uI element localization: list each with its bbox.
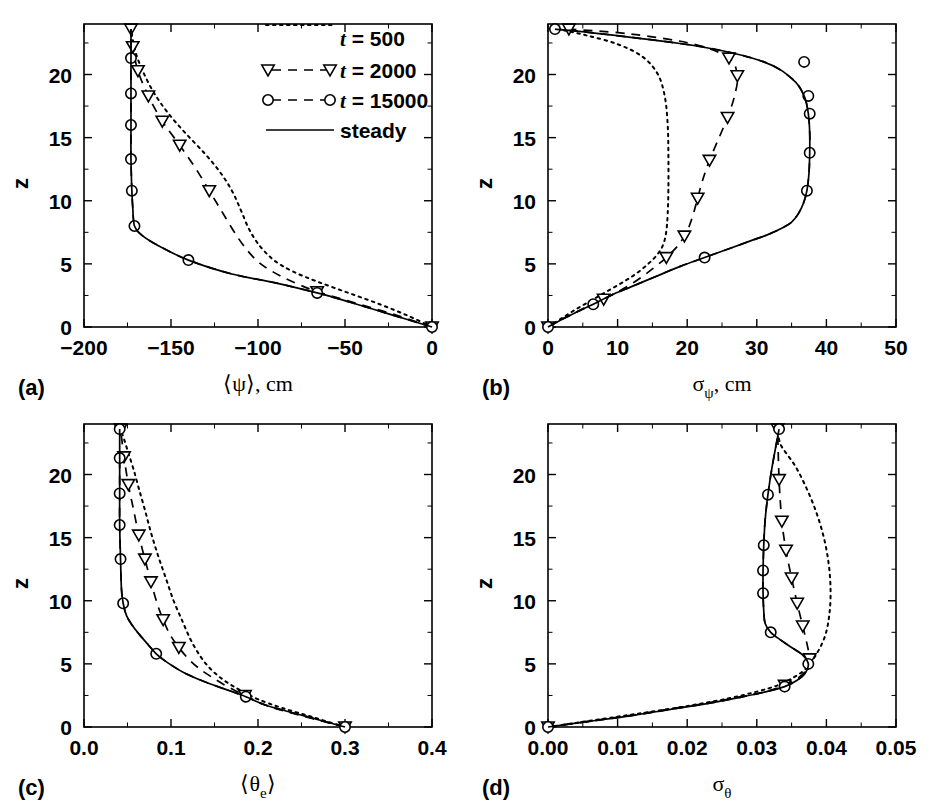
marker-triangle-down: [723, 53, 735, 64]
marker-triangle-down: [203, 186, 215, 197]
x-tick-label: −100: [234, 336, 281, 359]
y-axis-title: z: [8, 178, 33, 189]
panel-b: 0102030405005101520σψ, cmz(b): [472, 24, 908, 401]
x-tick-label: 30: [745, 336, 768, 359]
panel-d: 0.000.010.020.030.040.0505101520σθz(d): [472, 424, 917, 801]
marker-triangle-down: [791, 598, 803, 609]
marker-triangle-down: [691, 193, 703, 204]
y-tick-label: 5: [60, 253, 72, 276]
figure-container: −200−150−100−50005101520⟨ψ⟩, cmz(a)01020…: [0, 0, 934, 802]
x-tick-label: 0: [542, 336, 554, 359]
x-tick-label: 0.1: [156, 736, 186, 759]
panel-letter: (b): [482, 375, 510, 400]
legend: t = 500t = 2000t = 15000steady: [262, 25, 428, 142]
marker-triangle-down: [142, 91, 154, 102]
y-tick-label: 15: [513, 127, 537, 150]
x-tick-label: −50: [327, 336, 363, 359]
x-tick-label: 0.02: [667, 736, 708, 759]
y-axis-title: z: [8, 578, 33, 589]
y-axis-title: z: [472, 178, 497, 189]
marker-triangle-down: [122, 480, 134, 491]
x-tick-label: 10: [606, 336, 629, 359]
y-axis-title: z: [472, 578, 497, 589]
y-tick-label: 10: [513, 590, 536, 613]
y-tick-label: 15: [49, 127, 73, 150]
legend-label-2: t = 15000: [340, 89, 428, 113]
y-tick-label: 5: [60, 653, 72, 676]
marker-triangle-down: [721, 112, 733, 123]
series-line-2: [548, 29, 810, 327]
plot-frame: [548, 424, 896, 727]
y-tick-label: 20: [49, 464, 72, 487]
plot-frame: [548, 24, 896, 327]
y-tick-label: 20: [513, 464, 536, 487]
y-tick-label: 10: [513, 190, 536, 213]
multi-panel-figure: −200−150−100−50005101520⟨ψ⟩, cmz(a)01020…: [0, 0, 934, 802]
y-tick-label: 0: [524, 316, 536, 339]
y-tick-label: 5: [524, 253, 536, 276]
y-tick-label: 15: [513, 527, 537, 550]
x-tick-label: 0: [426, 336, 438, 359]
series-line-3: [548, 429, 808, 727]
marker-triangle-down: [127, 42, 139, 53]
marker-triangle-down: [133, 530, 145, 541]
x-tick-label: 40: [815, 336, 838, 359]
marker-triangle-down: [731, 71, 743, 82]
marker-triangle-down: [157, 615, 169, 626]
marker-circle: [263, 95, 273, 105]
x-tick-label: 20: [676, 336, 699, 359]
marker-triangle-down: [780, 545, 792, 556]
legend-label-0: t = 500: [340, 27, 405, 51]
marker-circle: [799, 57, 809, 67]
legend-label-1: t = 2000: [340, 59, 417, 83]
x-tick-label: 50: [884, 336, 907, 359]
x-tick-label: 0.05: [876, 736, 917, 759]
marker-circle: [805, 108, 815, 118]
marker-triangle-down: [776, 516, 788, 527]
x-tick-label: 0.03: [736, 736, 777, 759]
y-tick-label: 0: [60, 316, 72, 339]
marker-triangle-down: [703, 155, 715, 166]
series-line-0: [548, 29, 668, 327]
y-tick-label: 15: [49, 527, 73, 550]
marker-triangle-down: [773, 475, 785, 486]
marker-triangle-down: [156, 116, 168, 127]
x-tick-label: −200: [60, 336, 107, 359]
marker-triangle-down: [145, 577, 157, 588]
legend-label-3: steady: [340, 119, 407, 142]
series-line-3: [548, 29, 810, 327]
x-axis-title: σψ, cm: [692, 371, 751, 401]
y-tick-label: 0: [524, 716, 536, 739]
marker-circle: [325, 95, 335, 105]
panel-c: 0.00.10.20.30.405101520⟨θe⟩z(c): [8, 424, 447, 801]
x-tick-label: 0.2: [243, 736, 272, 759]
x-axis-title: ⟨θe⟩: [240, 771, 275, 801]
marker-triangle-down: [797, 621, 809, 632]
y-tick-label: 0: [60, 716, 72, 739]
x-axis-title: ⟨ψ⟩, cm: [223, 371, 293, 396]
panel-letter: (a): [18, 375, 45, 400]
marker-triangle-down: [174, 140, 186, 151]
plot-frame: [84, 424, 432, 727]
x-tick-label: 0.4: [417, 736, 447, 759]
marker-triangle-down: [132, 66, 144, 77]
x-tick-label: 0.0: [69, 736, 98, 759]
marker-triangle-down: [785, 573, 797, 584]
x-axis-title: σθ: [712, 771, 731, 801]
x-tick-label: 0.04: [806, 736, 847, 759]
y-tick-label: 10: [49, 590, 72, 613]
series-line-2: [548, 429, 808, 727]
panel-letter: (c): [18, 775, 45, 800]
marker-triangle-down: [139, 554, 151, 565]
x-tick-label: 0.3: [330, 736, 359, 759]
y-tick-label: 20: [513, 64, 536, 87]
x-tick-label: −150: [147, 336, 194, 359]
y-tick-label: 20: [49, 64, 72, 87]
y-tick-label: 10: [49, 190, 72, 213]
marker-triangle-down: [678, 231, 690, 242]
panel-letter: (d): [482, 775, 510, 800]
x-tick-label: 0.01: [597, 736, 638, 759]
x-tick-label: 0.00: [528, 736, 569, 759]
y-tick-label: 5: [524, 653, 536, 676]
